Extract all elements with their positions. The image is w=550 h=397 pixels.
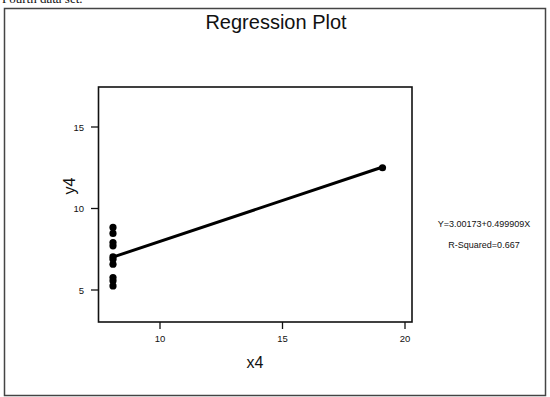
x-tick-label: 20 — [400, 333, 411, 344]
plot-area-frame — [99, 87, 413, 322]
data-points — [109, 164, 386, 289]
x-tick-label: 15 — [277, 333, 288, 344]
x-axis-label: x4 — [247, 354, 264, 371]
x-axis-ticks: 101520 — [155, 322, 411, 344]
regression-equation: Y=3.00173+0.499909X — [438, 219, 531, 229]
data-point — [109, 239, 116, 246]
x-tick-label: 10 — [155, 333, 166, 344]
data-point — [109, 230, 116, 237]
y-tick-label: 5 — [79, 285, 84, 296]
data-point — [379, 164, 386, 171]
regression-line — [112, 168, 381, 258]
r-squared-label: R-Squared=0.667 — [448, 240, 519, 250]
y-tick-label: 10 — [73, 203, 84, 214]
y-tick-label: 15 — [73, 122, 84, 133]
data-point — [109, 277, 116, 284]
regression-chart: Regression Plot 101520 51015 x4 y4 Y=3.0… — [0, 0, 550, 397]
data-point — [109, 256, 116, 263]
y-axis-label: y4 — [61, 177, 78, 194]
chart-title: Regression Plot — [205, 11, 347, 33]
y-axis-ticks: 51015 — [73, 122, 98, 296]
